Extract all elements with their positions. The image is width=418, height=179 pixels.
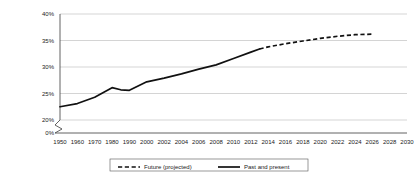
data-series-layer — [60, 34, 372, 107]
x-tick-label: 1960 — [71, 139, 85, 145]
x-tick-label: 2020 — [314, 139, 328, 145]
x-tick-label: 1990 — [123, 139, 137, 145]
x-tick-label: 2006 — [192, 139, 206, 145]
x-tick-label: 2000 — [140, 139, 154, 145]
gridlines — [60, 14, 407, 120]
x-tick-label: 2010 — [227, 139, 241, 145]
series-line-solid — [60, 49, 260, 107]
x-tick-label: 2024 — [348, 139, 362, 145]
y-tick-label: 0% — [45, 130, 54, 136]
y-tick-label: 35% — [42, 38, 55, 44]
legend-label: Future (projected) — [144, 164, 192, 170]
x-tick-label: 2002 — [157, 139, 171, 145]
x-tick-label: 2022 — [331, 139, 345, 145]
x-tick-label: 2012 — [244, 139, 258, 145]
x-tick-label: 2016 — [279, 139, 293, 145]
y-tick-label: 25% — [42, 91, 55, 97]
x-tick-label: 1950 — [53, 139, 67, 145]
x-tick-label: 2014 — [262, 139, 276, 145]
series-line-dashed — [260, 34, 373, 49]
x-tick-labels: 1950196019701980199020002002200420062008… — [53, 139, 414, 145]
y-axis — [55, 14, 62, 133]
x-tick-label: 2018 — [296, 139, 310, 145]
line-chart: 0%20%25%30%35%40% 1950196019701980199020… — [0, 0, 418, 179]
chart-container: 0%20%25%30%35%40% 1950196019701980199020… — [0, 0, 418, 179]
chart-legend: Future (projected)Past and present — [110, 159, 308, 171]
y-tick-labels: 0%20%25%30%35%40% — [42, 11, 55, 136]
x-tick-label: 2026 — [366, 139, 380, 145]
x-tick-label: 2028 — [383, 139, 397, 145]
x-tick-label: 2004 — [175, 139, 189, 145]
y-tick-label: 30% — [42, 64, 55, 70]
legend-label: Past and present — [244, 164, 290, 170]
y-tick-label: 40% — [42, 11, 55, 17]
x-tick-label: 1980 — [105, 139, 119, 145]
x-tick-label: 2030 — [400, 139, 414, 145]
x-tick-label: 2008 — [209, 139, 223, 145]
x-tick-label: 1970 — [88, 139, 102, 145]
y-axis-break-marker — [55, 120, 62, 133]
y-tick-label: 20% — [42, 117, 55, 123]
